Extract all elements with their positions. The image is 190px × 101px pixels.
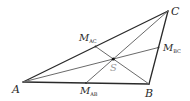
centroid-label: S xyxy=(110,62,117,73)
median-c-mab xyxy=(86,11,168,83)
vertex-label-a: A xyxy=(11,83,20,96)
midpoint-label-ab: MAB xyxy=(79,85,98,97)
triangle-diagram: A B C MAC MBC MAB S xyxy=(0,0,190,101)
vertex-label-c: C xyxy=(171,5,180,18)
midpoint-ac-dot xyxy=(95,46,97,48)
centroid-point xyxy=(112,57,115,60)
midpoint-bc-dot xyxy=(158,47,160,49)
vertex-label-b: B xyxy=(144,87,153,100)
midpoint-ab-dot xyxy=(85,82,87,84)
midpoint-label-bc: MBC xyxy=(162,42,181,54)
midpoint-label-ac: MAC xyxy=(78,32,97,44)
